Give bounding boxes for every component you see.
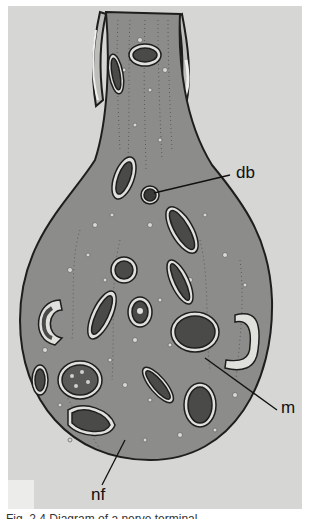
label-db: db — [236, 164, 255, 181]
label-nf: nf — [91, 486, 105, 503]
label-m: m — [281, 399, 295, 416]
bouton-illustration — [0, 0, 310, 519]
figure-caption: Fig. 2.4 Diagram of a nerve terminal... — [6, 511, 306, 519]
